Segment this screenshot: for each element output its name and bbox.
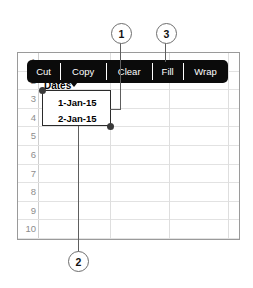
column-divider bbox=[228, 53, 229, 239]
grid-row[interactable]: 7 bbox=[18, 165, 239, 184]
row-number: 6 bbox=[18, 146, 36, 165]
menu-item-fill[interactable]: Fill bbox=[152, 60, 183, 83]
callout-3-leader-vertical bbox=[165, 42, 166, 62]
row-number: 3 bbox=[18, 90, 36, 109]
cell-context-toolbar[interactable]: Cut Copy Clear Fill Wrap bbox=[27, 60, 228, 83]
cell-value-row2[interactable]: 1-Jan-15 bbox=[58, 97, 97, 108]
row-number: 10 bbox=[18, 220, 36, 239]
grid-row[interactable]: 5 bbox=[18, 127, 239, 146]
callout-2-leader-vertical bbox=[78, 126, 80, 252]
toolbar-pointer-tail bbox=[70, 82, 78, 87]
menu-item-clear[interactable]: Clear bbox=[106, 60, 152, 83]
grid-row[interactable]: 8 bbox=[18, 183, 239, 202]
callout-1-leader-vertical bbox=[120, 42, 121, 110]
row-number: 7 bbox=[18, 165, 36, 184]
callout-1: 1 bbox=[111, 23, 132, 44]
selection-handle-top-left[interactable] bbox=[39, 87, 46, 94]
callout-3: 3 bbox=[156, 23, 177, 44]
row-number: 4 bbox=[18, 109, 36, 128]
menu-item-copy[interactable]: Copy bbox=[60, 60, 106, 83]
callout-2: 2 bbox=[68, 251, 89, 272]
selection-handle-bottom-right[interactable] bbox=[107, 123, 114, 130]
grid-row[interactable]: 10 bbox=[18, 220, 239, 239]
callout-1-leader-horizontal bbox=[110, 109, 121, 110]
row-number: 5 bbox=[18, 127, 36, 146]
grid-row[interactable]: 6 bbox=[18, 146, 239, 165]
menu-item-cut[interactable]: Cut bbox=[27, 60, 60, 83]
menu-item-wrap[interactable]: Wrap bbox=[183, 60, 228, 83]
row-number: 9 bbox=[18, 202, 36, 221]
grid-row[interactable]: 9 bbox=[18, 202, 239, 221]
screenshot-stage: 1 2 3 4 5 6 7 8 9 10 Dates 1-Jan-15 2-Ja… bbox=[0, 0, 253, 288]
cell-value-row3[interactable]: 2-Jan-15 bbox=[58, 113, 97, 124]
row-number: 8 bbox=[18, 183, 36, 202]
